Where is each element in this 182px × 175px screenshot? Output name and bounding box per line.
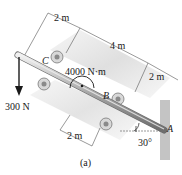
angle-label: 30° [138, 138, 152, 148]
dim-top-middle: 4 m [110, 41, 125, 51]
force-arrow-300n [15, 57, 23, 96]
dim-top-right: 2 m [149, 72, 164, 82]
label-point-c: C [42, 56, 49, 66]
angle-30-indicator [134, 123, 139, 132]
diagram-canvas [0, 0, 182, 175]
dim-top-left: 2 m [54, 13, 69, 23]
label-point-b: B [103, 91, 109, 101]
dim-bottom: 2 m [67, 131, 82, 141]
bearing-c [51, 51, 63, 63]
bearing-b-lower [100, 118, 112, 130]
force-label: 300 N [5, 102, 30, 112]
bearing-c-lower [38, 78, 50, 90]
figure-caption: (a) [80, 158, 91, 168]
label-point-a: A [167, 124, 173, 134]
couple-label: 4000 N·m [65, 67, 106, 77]
